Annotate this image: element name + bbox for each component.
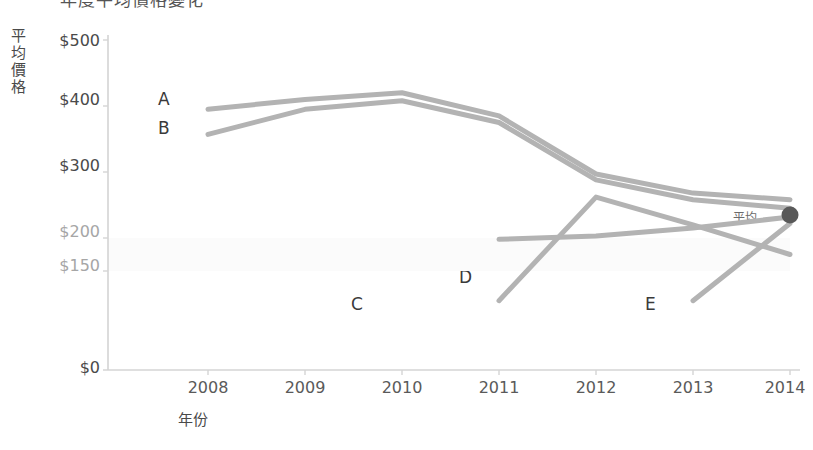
recommended-band-region [108,238,790,271]
series-line-a [208,93,790,200]
plot-area [0,0,813,450]
series-line-d [499,217,790,239]
average-point-marker [782,206,799,223]
chart-container: 年度平均價格變化 平均價格 年份 $500 $400 $300 $200 $15… [0,0,813,450]
